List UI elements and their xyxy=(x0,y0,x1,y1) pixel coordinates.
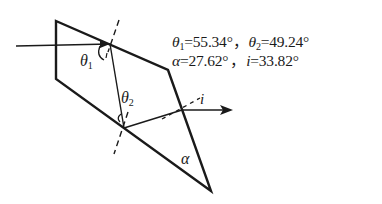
theta1-arc-tick xyxy=(106,53,107,58)
alpha-value: =27.62° xyxy=(180,52,228,69)
reflected-ray xyxy=(124,110,182,128)
incident-ray xyxy=(16,44,110,46)
refracted-ray xyxy=(110,44,124,128)
theta1-arc xyxy=(99,46,104,60)
i-label: i xyxy=(200,91,204,107)
normal-line-reflection xyxy=(114,112,128,154)
values-line-2: α=27.62°，i=33.82° xyxy=(172,48,299,70)
theta2-arc xyxy=(118,114,121,122)
alpha-symbol: α xyxy=(172,52,180,69)
separator: ， xyxy=(230,52,246,69)
theta2-label: θ2 xyxy=(121,89,134,108)
theta1-label: θ1 xyxy=(80,52,93,71)
i-value: =33.82° xyxy=(250,52,298,69)
alpha-label: α xyxy=(181,150,190,167)
